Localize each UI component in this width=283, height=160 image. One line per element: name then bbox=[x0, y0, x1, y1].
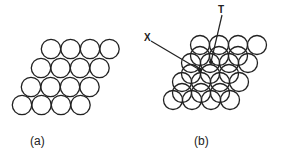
sphere bbox=[229, 36, 248, 55]
x-pointer-line bbox=[151, 41, 200, 70]
x-site-dot bbox=[198, 68, 201, 71]
sphere bbox=[51, 95, 70, 114]
sphere bbox=[70, 58, 89, 77]
sphere bbox=[60, 77, 79, 96]
t-label: T bbox=[218, 4, 224, 15]
sphere bbox=[100, 39, 119, 58]
sphere bbox=[80, 77, 99, 96]
sphere bbox=[248, 36, 267, 55]
sphere bbox=[12, 95, 31, 114]
sphere bbox=[32, 95, 51, 114]
t-site-dot bbox=[210, 61, 213, 64]
sphere bbox=[51, 58, 70, 77]
sphere bbox=[80, 39, 99, 58]
sphere bbox=[41, 39, 60, 58]
annotation-lines bbox=[151, 15, 222, 72]
sphere bbox=[71, 95, 90, 114]
panel-a-spheres bbox=[12, 39, 119, 114]
sphere bbox=[61, 39, 80, 58]
sphere bbox=[210, 36, 229, 55]
x-label: X bbox=[144, 32, 151, 43]
sphere bbox=[21, 77, 40, 96]
sphere bbox=[41, 77, 60, 96]
panel-b-label: (b) bbox=[194, 134, 209, 148]
sphere bbox=[90, 58, 109, 77]
panel-a-label: (a) bbox=[30, 134, 45, 148]
sphere bbox=[31, 58, 50, 77]
sphere bbox=[191, 36, 210, 55]
